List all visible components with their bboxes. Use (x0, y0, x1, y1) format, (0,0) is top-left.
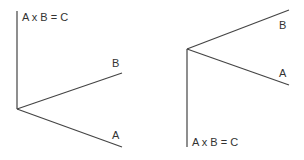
right-vector-a-line (187, 49, 289, 85)
right-vector-c-label: A x B = C (192, 136, 238, 148)
right-vector-b-line (187, 10, 289, 49)
right-vector-a-label: A (279, 67, 287, 79)
right-vector-b-label: B (279, 19, 286, 31)
left-vector-c-label: A x B = C (22, 11, 68, 23)
left-vector-a-label: A (112, 129, 120, 141)
cross-product-diagrams: A x B = C B A B A A x B = C (0, 0, 304, 160)
left-diagram: A x B = C B A (17, 11, 122, 147)
left-vector-a-line (17, 109, 122, 147)
right-diagram: B A A x B = C (187, 10, 289, 148)
left-vector-b-line (17, 73, 122, 109)
left-vector-b-label: B (112, 57, 119, 69)
